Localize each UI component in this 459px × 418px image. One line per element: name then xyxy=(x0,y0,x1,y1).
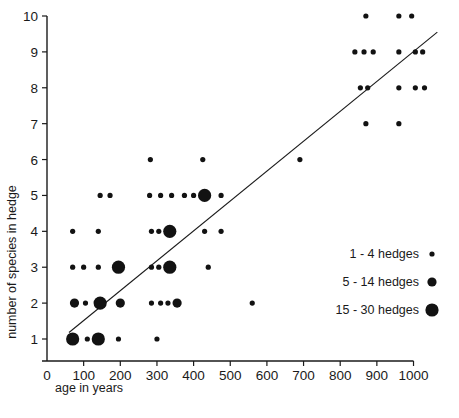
data-point xyxy=(250,301,255,306)
data-point xyxy=(422,85,427,90)
data-point xyxy=(83,301,88,306)
data-point xyxy=(85,336,90,341)
data-point xyxy=(182,193,187,198)
y-tick-label: 5 xyxy=(30,188,38,203)
x-tick-label: 800 xyxy=(329,368,352,383)
scatter-plot-figure: 12345678910 0100200300400500600700800900… xyxy=(0,0,459,418)
legend-marker xyxy=(429,251,434,256)
data-point xyxy=(70,229,75,234)
y-tick-label: 10 xyxy=(23,9,38,24)
data-point xyxy=(116,336,121,341)
data-point xyxy=(94,297,107,310)
legend-label: 1 - 4 hedges xyxy=(350,247,420,261)
y-tick-label: 6 xyxy=(30,153,38,168)
data-point xyxy=(413,85,418,90)
data-point xyxy=(191,193,196,198)
data-point xyxy=(409,13,414,18)
legend-label: 15 - 30 hedges xyxy=(336,303,419,317)
data-point xyxy=(173,299,182,308)
legend-marker xyxy=(427,277,436,286)
x-tick-label: 700 xyxy=(292,368,315,383)
plot-canvas: 12345678910 0100200300400500600700800900… xyxy=(0,0,459,418)
data-point xyxy=(107,193,112,198)
data-point xyxy=(169,193,174,198)
data-point xyxy=(218,193,223,198)
data-point xyxy=(297,157,302,162)
x-tick-label: 400 xyxy=(182,368,205,383)
data-point xyxy=(81,265,86,270)
data-point xyxy=(163,261,176,274)
legend-marker xyxy=(425,303,438,316)
data-point xyxy=(92,332,105,345)
y-axis: 12345678910 xyxy=(23,9,47,361)
data-point xyxy=(112,261,125,274)
data-point xyxy=(363,121,368,126)
data-point xyxy=(66,332,79,345)
data-point xyxy=(206,265,211,270)
data-point xyxy=(165,301,170,306)
data-point xyxy=(200,157,205,162)
data-point xyxy=(70,265,75,270)
x-tick-label: 500 xyxy=(219,368,242,383)
legend-label: 5 - 14 hedges xyxy=(343,275,419,289)
x-tick-label: 300 xyxy=(146,368,169,383)
data-point xyxy=(365,85,370,90)
data-point xyxy=(158,301,163,306)
data-point xyxy=(363,13,368,18)
data-point xyxy=(154,336,159,341)
data-point xyxy=(149,229,154,234)
data-point xyxy=(396,13,401,18)
y-tick-label: 2 xyxy=(30,296,38,311)
data-point xyxy=(361,49,366,54)
y-tick-label: 8 xyxy=(30,81,38,96)
data-point xyxy=(396,49,401,54)
data-point xyxy=(202,229,207,234)
x-tick-label: 900 xyxy=(366,368,389,383)
data-point xyxy=(413,49,418,54)
x-tick-label: 1000 xyxy=(398,368,428,383)
data-point xyxy=(148,157,153,162)
x-axis-title: age in years xyxy=(55,381,123,395)
data-point xyxy=(218,229,223,234)
data-point xyxy=(98,193,103,198)
data-point xyxy=(70,299,79,308)
y-tick-label: 3 xyxy=(30,260,38,275)
legend: 1 - 4 hedges5 - 14 hedges15 - 30 hedges xyxy=(336,247,439,317)
x-tick-label: 600 xyxy=(256,368,279,383)
data-point xyxy=(156,229,161,234)
data-point xyxy=(149,265,154,270)
axis-titles: age in yearsnumber of species in hedge xyxy=(5,185,123,395)
data-point xyxy=(96,229,101,234)
data-point xyxy=(158,193,163,198)
data-point xyxy=(396,85,401,90)
data-point xyxy=(396,121,401,126)
data-point xyxy=(156,265,161,270)
data-point xyxy=(352,49,357,54)
y-tick-label: 9 xyxy=(30,45,38,60)
data-point xyxy=(358,85,363,90)
y-axis-title: number of species in hedge xyxy=(5,185,19,339)
data-point xyxy=(149,301,154,306)
data-point xyxy=(147,193,152,198)
y-tick-label: 7 xyxy=(30,117,38,132)
data-point xyxy=(163,225,176,238)
x-axis: 01002003004005006007008009001000 xyxy=(42,361,429,383)
x-tick-label: 0 xyxy=(43,368,51,383)
y-tick-label: 1 xyxy=(30,332,38,347)
data-point xyxy=(116,299,125,308)
data-point xyxy=(371,49,376,54)
data-point xyxy=(420,49,425,54)
y-tick-label: 4 xyxy=(30,224,38,239)
data-points xyxy=(66,13,427,345)
data-point xyxy=(96,265,101,270)
data-point xyxy=(198,189,211,202)
